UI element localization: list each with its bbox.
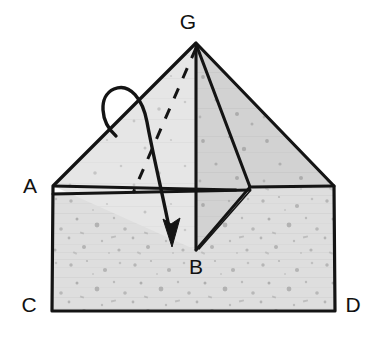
geometry-figure-svg: G A B C D [0, 0, 368, 338]
geometry-figure-root: G A B C D [0, 0, 368, 338]
label-B: B [189, 255, 203, 278]
label-G: G [180, 10, 196, 33]
edge-F-E [250, 186, 334, 187]
label-C: C [21, 293, 36, 316]
label-A: A [23, 174, 37, 197]
label-D: D [345, 293, 360, 316]
